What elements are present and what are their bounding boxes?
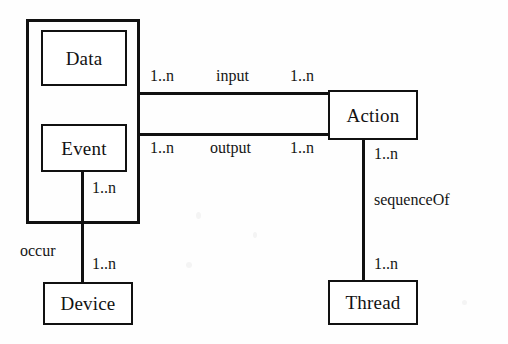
entity-thread-label: Thread: [346, 293, 401, 312]
output-to-cardinality: 1..n: [290, 140, 314, 156]
entity-relationship-diagram: 1..n input 1..n 1..n output 1..n 1..n se…: [0, 0, 508, 344]
sequenceof-relationship-label: sequenceOf: [374, 192, 450, 208]
scan-speckle: [196, 212, 201, 219]
sequenceof-connector-line: [362, 138, 365, 282]
occur-relationship-label: occur: [20, 243, 56, 259]
output-from-cardinality: 1..n: [150, 140, 174, 156]
output-relationship-label: output: [210, 140, 251, 156]
input-from-cardinality: 1..n: [150, 68, 174, 84]
input-to-cardinality: 1..n: [290, 68, 314, 84]
sequenceof-from-cardinality: 1..n: [374, 146, 398, 162]
sequenceof-to-cardinality: 1..n: [374, 256, 398, 272]
entity-action-label: Action: [347, 106, 400, 125]
output-connector-line: [139, 133, 329, 136]
entity-event-label: Event: [61, 139, 106, 158]
scan-speckle: [462, 300, 467, 305]
entity-action[interactable]: Action: [328, 90, 418, 140]
input-relationship-label: input: [216, 68, 249, 84]
scan-speckle: [186, 262, 192, 268]
entity-device[interactable]: Device: [43, 282, 133, 325]
scan-speckle: [253, 232, 257, 238]
entity-data-label: Data: [66, 49, 103, 68]
input-connector-line: [139, 92, 329, 95]
entity-data[interactable]: Data: [41, 30, 127, 86]
entity-thread[interactable]: Thread: [328, 280, 418, 325]
entity-event[interactable]: Event: [41, 124, 127, 172]
entity-device-label: Device: [61, 294, 116, 313]
occur-to-cardinality: 1..n: [92, 256, 116, 272]
